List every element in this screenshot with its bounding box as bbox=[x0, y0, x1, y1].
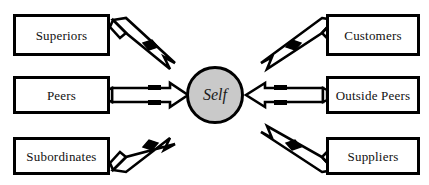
center-node-self[interactable]: Self bbox=[186, 66, 244, 124]
node-peers[interactable]: Peers bbox=[13, 76, 110, 114]
node-suppliers-label: Suppliers bbox=[348, 150, 399, 163]
arrow-outside-peers-to-self bbox=[246, 83, 327, 107]
arrow-subordinates-to-self bbox=[110, 138, 175, 172]
arrow-superiors-to-self bbox=[110, 18, 175, 69]
feedback-diagram: Superiors Peers Subordinates Customers O… bbox=[0, 0, 429, 185]
node-outside-peers-label: Outside Peers bbox=[336, 89, 410, 102]
node-suppliers[interactable]: Suppliers bbox=[326, 137, 420, 175]
node-customers-label: Customers bbox=[344, 29, 401, 42]
node-peers-label: Peers bbox=[47, 89, 76, 102]
arrow-peers-to-self bbox=[108, 83, 188, 107]
node-superiors[interactable]: Superiors bbox=[13, 14, 110, 56]
node-subordinates[interactable]: Subordinates bbox=[13, 137, 110, 175]
node-subordinates-label: Subordinates bbox=[26, 150, 96, 163]
center-node-label: Self bbox=[203, 87, 227, 103]
node-outside-peers[interactable]: Outside Peers bbox=[326, 76, 420, 114]
node-customers[interactable]: Customers bbox=[326, 14, 420, 56]
node-superiors-label: Superiors bbox=[36, 29, 88, 42]
